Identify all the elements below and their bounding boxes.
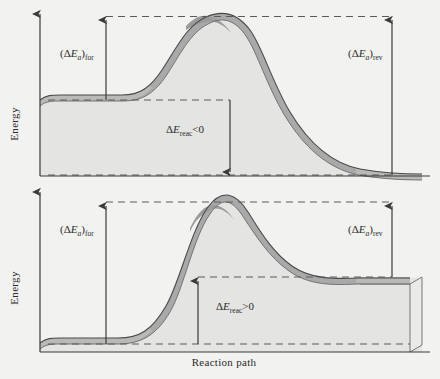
endothermic-product-block-side bbox=[410, 277, 422, 352]
lbl-rel: >0 bbox=[242, 300, 254, 312]
lbl-delta: Δ bbox=[352, 223, 359, 235]
energy-diagram-svg: Energy (ΔEa)for (ΔEa)rev ΔEreac<0 bbox=[0, 0, 440, 379]
lbl-delta: Δ bbox=[216, 300, 223, 312]
lbl-sub: reac bbox=[230, 306, 243, 315]
lbl-sub: rev bbox=[373, 53, 383, 62]
lbl-delta: Δ bbox=[166, 123, 173, 135]
lbl-delta: Δ bbox=[64, 223, 71, 235]
lbl-delta: Δ bbox=[352, 47, 359, 59]
lbl-sub: reac bbox=[180, 129, 193, 138]
lbl-sub: for bbox=[85, 53, 94, 62]
endothermic-y-axis-label: Energy bbox=[8, 271, 20, 305]
exothermic-y-axis-label: Energy bbox=[8, 107, 20, 141]
lbl-sub: rev bbox=[373, 229, 383, 238]
energy-diagram-figure: Energy (ΔEa)for (ΔEa)rev ΔEreac<0 bbox=[0, 0, 440, 379]
lbl-rel: <0 bbox=[192, 123, 204, 135]
x-axis-label: Reaction path bbox=[192, 356, 257, 368]
lbl-delta: Δ bbox=[64, 47, 71, 59]
lbl-sub: for bbox=[85, 229, 94, 238]
